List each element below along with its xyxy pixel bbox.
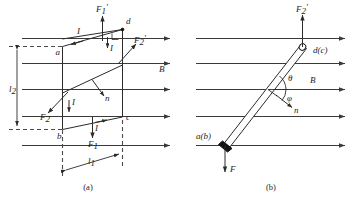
label-vertex-ab: a(b) bbox=[196, 131, 211, 141]
panel-b: B d(c) a(b) θ φ n F2′ F (b) bbox=[196, 2, 345, 192]
label-dimension-l2: l2 bbox=[9, 84, 17, 96]
label-angle-theta: θ bbox=[288, 73, 293, 83]
caption-panel-a: (a) bbox=[83, 182, 93, 192]
label-field-B-b: B bbox=[310, 75, 316, 85]
label-current-bottom: I bbox=[94, 123, 99, 133]
vertex-dot-d bbox=[121, 28, 124, 31]
normal-vector-arrow bbox=[92, 80, 104, 97]
loop-bar-body bbox=[224, 45, 307, 148]
label-normal-n-b: n bbox=[294, 105, 299, 115]
label-current-right: I bbox=[109, 43, 114, 53]
label-current-left: I bbox=[71, 97, 76, 107]
label-force-F-b: F bbox=[229, 164, 236, 174]
label-normal-n-a: n bbox=[105, 93, 110, 103]
label-vertex-d: d bbox=[126, 16, 131, 26]
label-vertex-dc: d(c) bbox=[313, 45, 328, 55]
label-dimension-l1: l1 bbox=[88, 156, 95, 168]
label-vertex-c: c bbox=[126, 112, 130, 122]
label-field-B-a: B bbox=[159, 64, 165, 74]
label-current-top: I bbox=[76, 26, 81, 36]
label-force-F2: F2 bbox=[39, 112, 51, 124]
label-angle-phi: φ bbox=[287, 93, 292, 103]
label-force-F1-prime: F1′ bbox=[95, 2, 109, 17]
label-force-F2-prime-b: F2′ bbox=[295, 2, 309, 17]
angle-arc-phi bbox=[282, 90, 286, 101]
panel-a: B a b c d I I I I F1′ F2′ F2 bbox=[9, 2, 170, 192]
force-F2-arrow bbox=[48, 92, 68, 113]
label-vertex-b: b bbox=[57, 131, 62, 141]
panel-a-dashed-guides bbox=[9, 47, 123, 178]
label-force-F1: F1 bbox=[87, 139, 98, 151]
panel-a-current-arrows bbox=[69, 37, 108, 123]
current-arrow-top bbox=[71, 41, 83, 45]
loop-midline bbox=[63, 65, 123, 93]
label-vertex-a: a bbox=[56, 47, 61, 57]
physics-figure: B a b c d I I I I F1′ F2′ F2 bbox=[0, 0, 351, 201]
caption-panel-b: (b) bbox=[266, 182, 276, 192]
panel-b-loop-edge-on bbox=[219, 42, 308, 152]
force-F2-prime-arrow bbox=[118, 44, 136, 64]
figure-canvas: B a b c d I I I I F1′ F2′ F2 bbox=[0, 0, 351, 201]
